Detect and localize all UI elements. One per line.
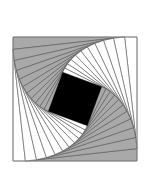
whirling-squares-diagram — [0, 0, 148, 170]
